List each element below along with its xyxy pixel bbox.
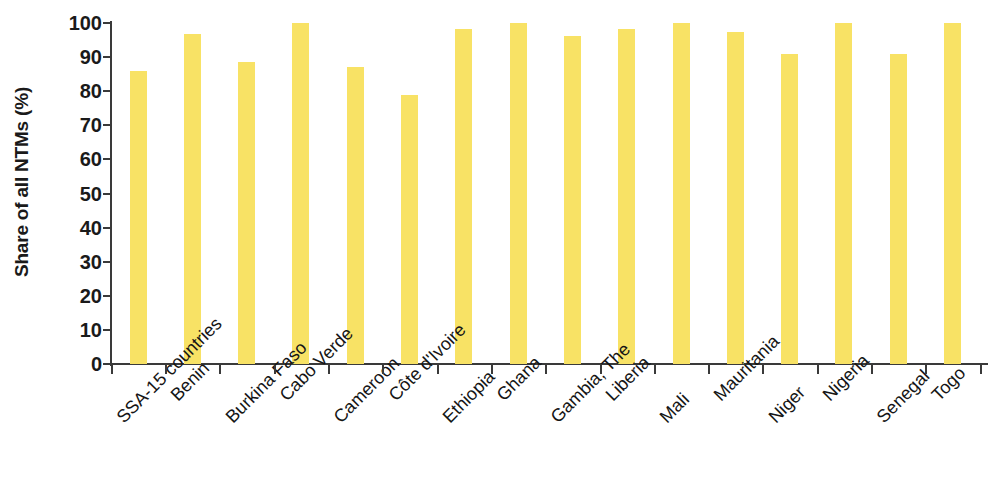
y-axis-tick-label: 30: [50, 252, 102, 272]
x-axis-tick-mark: [219, 365, 221, 374]
x-axis-tick-mark: [708, 365, 710, 374]
bar: [292, 23, 309, 364]
x-axis-tick-mark: [817, 365, 819, 374]
bar: [401, 95, 418, 364]
y-axis-tick-mark: [103, 363, 111, 365]
y-axis-tick-label: 80: [50, 81, 102, 101]
y-axis-tick-mark: [103, 22, 111, 24]
plot-area: [110, 23, 988, 364]
chart-figure: Share of all NTMs (%) 100908070605040302…: [0, 0, 990, 503]
y-axis-tick-mark: [103, 90, 111, 92]
bar: [347, 67, 364, 364]
bar: [781, 54, 798, 364]
y-axis-tick-label: 20: [50, 286, 102, 306]
y-axis-title-text: Share of all NTMs (%): [11, 87, 33, 277]
y-axis-tick-mark: [103, 227, 111, 229]
bar: [130, 71, 147, 364]
y-axis-tick-label: 70: [50, 115, 102, 135]
bar: [455, 29, 472, 364]
x-axis-tick-labels: SSA-15 countriesBeninBurkina FasoCabo Ve…: [0, 364, 990, 503]
x-axis-tick-mark: [871, 365, 873, 374]
y-axis-tick-mark: [103, 329, 111, 331]
bar: [890, 54, 907, 364]
x-axis-tick-label: Mali: [656, 390, 692, 426]
bar: [184, 34, 201, 364]
y-axis-tick-label: 40: [50, 218, 102, 238]
y-axis-tick-mark: [103, 295, 111, 297]
bar: [673, 23, 690, 364]
x-axis-tick-label: Senegal: [873, 367, 932, 426]
y-axis-tick-mark: [103, 56, 111, 58]
bar: [944, 23, 961, 364]
x-axis-tick-mark: [654, 365, 656, 374]
x-axis-tick-mark: [762, 365, 764, 374]
bar: [238, 62, 255, 364]
x-axis-tick-label: Ethiopia: [439, 367, 498, 426]
x-axis-tick-mark: [274, 365, 276, 374]
x-axis-tick-label: Togo: [928, 364, 968, 404]
y-axis-tick-label: 60: [50, 149, 102, 169]
bar: [510, 23, 527, 364]
y-axis-tick-label: 90: [50, 47, 102, 67]
x-axis-tick-mark: [111, 365, 113, 374]
x-axis-tick-label: Niger: [765, 383, 808, 426]
x-axis-tick-mark: [437, 365, 439, 374]
x-axis-tick-mark: [925, 365, 927, 374]
x-axis-tick-mark: [491, 365, 493, 374]
y-axis-tick-label: 100: [50, 13, 102, 33]
y-axis-tick-mark: [103, 261, 111, 263]
bar: [835, 23, 852, 364]
y-axis-tick-label: 10: [50, 320, 102, 340]
x-axis-tick-mark: [600, 365, 602, 374]
bar: [618, 29, 635, 364]
x-axis-tick-mark: [382, 365, 384, 374]
y-axis-title: Share of all NTMs (%): [0, 0, 44, 364]
y-axis-tick-label: 50: [50, 184, 102, 204]
x-axis-tick-mark: [328, 365, 330, 374]
y-axis-tick-mark: [103, 124, 111, 126]
x-axis-tick-mark: [165, 365, 167, 374]
bar: [564, 36, 581, 364]
x-axis-tick-mark: [545, 365, 547, 374]
y-axis-tick-mark: [103, 193, 111, 195]
x-axis-tick-mark: [980, 365, 982, 374]
y-axis-tick-mark: [103, 158, 111, 160]
bar: [727, 32, 744, 364]
